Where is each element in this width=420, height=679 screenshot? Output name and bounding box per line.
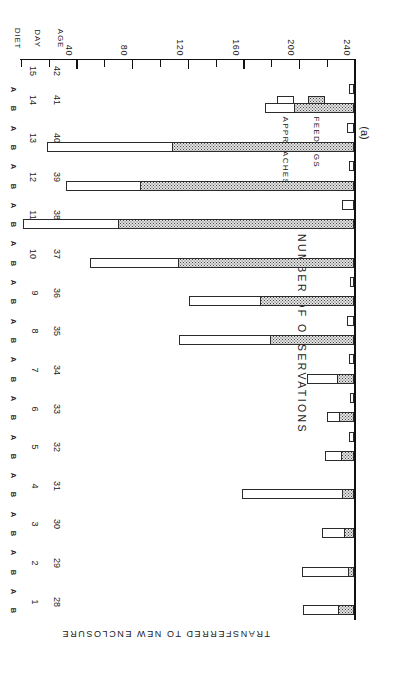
bar-segment-feedings [341, 412, 355, 422]
category-axis-line [354, 60, 356, 620]
age-label-column: 282930313233343536373839404142 [44, 60, 64, 620]
bar [90, 258, 354, 268]
bar [349, 84, 355, 94]
value-axis-tick [132, 60, 133, 69]
bar-segment-approaches [189, 296, 261, 306]
diet-label: B [9, 299, 18, 304]
day-label-column: 123456789101112131415 [20, 60, 40, 620]
bar-segment-feedings [342, 451, 355, 461]
age-label: 28 [52, 597, 62, 607]
bar [179, 335, 354, 345]
age-label: 42 [52, 66, 62, 76]
bar [350, 277, 354, 287]
day-label: 6 [30, 406, 40, 411]
bar [302, 567, 355, 577]
bar [325, 451, 354, 461]
value-axis-tick [104, 60, 105, 67]
bar [23, 219, 354, 229]
age-label: 33 [52, 404, 62, 414]
value-axis-tick [243, 60, 244, 69]
diet-label: B [9, 183, 18, 188]
value-axis-tick-label: 80 [119, 45, 129, 56]
age-label: 41 [52, 95, 62, 105]
bar-segment-approaches [303, 605, 339, 615]
bar-segment-feedings [271, 335, 355, 345]
day-label: 9 [30, 290, 40, 295]
value-axis-tick-label: 200 [286, 39, 296, 56]
age-label: 38 [52, 210, 62, 220]
bar-segment-feedings [119, 219, 354, 229]
bar-segment-approaches [349, 354, 355, 364]
bar [349, 161, 355, 171]
diet-label: A [9, 203, 18, 208]
value-axis-tick [327, 60, 328, 67]
bar [242, 489, 355, 499]
age-label: 30 [52, 519, 62, 529]
bar-segment-approaches [265, 103, 294, 113]
diet-label: B [9, 338, 18, 343]
diet-label: A [9, 280, 18, 285]
bar [47, 142, 355, 152]
diet-label: B [9, 222, 18, 227]
diet-label: A [9, 357, 18, 362]
bar-segment-feedings [174, 142, 355, 152]
day-label: 1 [30, 599, 40, 604]
bar-segment-feedings [261, 296, 354, 306]
age-label: 34 [52, 365, 62, 375]
bar-segment-approaches [350, 277, 354, 287]
diet-label: B [9, 106, 18, 111]
bar [322, 528, 354, 538]
diet-label: B [9, 454, 18, 459]
bar-segment-feedings [179, 258, 354, 268]
day-label: 2 [30, 561, 40, 566]
age-label: 37 [52, 249, 62, 259]
bar [307, 374, 354, 384]
value-axis-tick-label: 240 [342, 39, 352, 56]
diet-label: A [9, 87, 18, 92]
bar-segment-feedings [338, 374, 355, 384]
diet-label: A [9, 550, 18, 555]
day-label: 5 [30, 445, 40, 450]
age-label: 32 [52, 442, 62, 452]
bar [66, 181, 354, 191]
value-axis-tick [355, 60, 356, 69]
value-axis-tick [76, 60, 77, 69]
bar-segment-approaches [302, 567, 349, 577]
diet-label-column: BABABABABABABABABABABABABABA [0, 60, 18, 620]
diet-label: B [9, 376, 18, 381]
bar-segment-feedings [343, 489, 354, 499]
day-label: 13 [28, 133, 38, 143]
age-label: 39 [52, 172, 62, 182]
value-axis-tick-label: 40 [64, 45, 74, 56]
bar-segment-approaches [327, 412, 341, 422]
transfer-annotation: TRANSFERRED TO NEW ENCLOSURE [61, 629, 270, 639]
bar [347, 123, 354, 133]
value-axis-tick [216, 60, 217, 67]
bar [347, 316, 354, 326]
diet-label: A [9, 241, 18, 246]
bar-segment-feedings [141, 181, 354, 191]
diet-label: B [9, 145, 18, 150]
day-label: 15 [28, 66, 38, 76]
diet-label: B [9, 261, 18, 266]
bar-segment-approaches [342, 200, 355, 210]
value-axis-tick [188, 60, 189, 69]
day-label: 3 [30, 522, 40, 527]
bar-segment-approaches [325, 451, 342, 461]
age-label: 29 [52, 558, 62, 568]
diet-label: B [9, 608, 18, 613]
figure-stage: NUMBER OF OBSERVATIONS TRANSFERRED TO NE… [0, 0, 420, 679]
bar-segment-approaches [47, 142, 174, 152]
day-label: 10 [28, 249, 38, 259]
bar [327, 412, 355, 422]
day-label: 8 [30, 329, 40, 334]
diet-label: A [9, 473, 18, 478]
bar [303, 605, 354, 615]
value-axis-tick [160, 60, 161, 67]
bar-segment-approaches [349, 84, 355, 94]
bar-segment-approaches [322, 528, 344, 538]
bar-segment-feedings [345, 528, 355, 538]
value-axis-tick-label: 120 [175, 39, 185, 56]
age-label: 36 [52, 288, 62, 298]
bar [349, 354, 355, 364]
